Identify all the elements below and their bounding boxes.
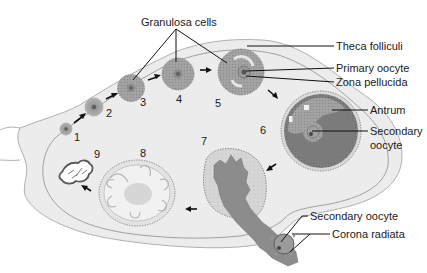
stage-number-6: 6: [260, 124, 266, 136]
svg-text:Granulosa cells: Granulosa cells: [141, 16, 217, 28]
svg-text:Secondary oocyte: Secondary oocyte: [310, 210, 398, 222]
svg-text:Corona radiata: Corona radiata: [332, 228, 406, 240]
svg-text:oocyte: oocyte: [370, 139, 402, 151]
stage-number-1: 1: [74, 131, 80, 143]
svg-text:Secondary: Secondary: [370, 125, 423, 137]
stage-number-2: 2: [106, 107, 112, 119]
svg-text:Theca folliculi: Theca folliculi: [336, 40, 403, 52]
stage-number-5: 5: [215, 97, 221, 109]
stage-number-3: 3: [140, 96, 146, 108]
svg-text:Zona pellucida: Zona pellucida: [336, 76, 408, 88]
svg-text:Primary oocyte: Primary oocyte: [336, 62, 409, 74]
stage-number-7: 7: [201, 135, 207, 147]
stage-number-9: 9: [94, 148, 100, 160]
svg-text:Antrum: Antrum: [370, 104, 405, 116]
stage-number-4: 4: [176, 93, 182, 105]
label-corona-radiata: Corona radiata: [290, 228, 406, 252]
stage-number-8: 8: [140, 147, 146, 159]
ovary-follicle-diagram: 1 2 3 4 5: [0, 0, 427, 273]
